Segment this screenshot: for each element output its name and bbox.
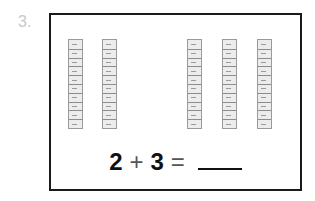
rod-tick xyxy=(261,53,266,54)
rod-tick xyxy=(72,71,77,72)
rod-tick xyxy=(191,88,196,89)
rod-tick xyxy=(72,97,77,98)
problem-box: 2+3= xyxy=(49,13,302,191)
ten-rod xyxy=(102,39,117,129)
rod-segment-line xyxy=(223,58,236,59)
rod-segment-line xyxy=(69,93,82,94)
rod-segment-line xyxy=(258,66,271,67)
rod-tick xyxy=(226,106,231,107)
rod-segment-line xyxy=(258,58,271,59)
rod-segment-line xyxy=(69,102,82,103)
rod-segment-line xyxy=(103,119,116,120)
rod-segment-line xyxy=(223,49,236,50)
rod-tick xyxy=(72,106,77,107)
rod-tick xyxy=(72,44,77,45)
rod-segment-line xyxy=(188,58,201,59)
rod-segment-line xyxy=(188,93,201,94)
rod-segment-line xyxy=(258,102,271,103)
rod-segment-line xyxy=(258,110,271,111)
rod-tick xyxy=(191,62,196,63)
rod-tick xyxy=(226,97,231,98)
rod-tick xyxy=(261,115,266,116)
rod-tick xyxy=(106,44,111,45)
rod-segment-line xyxy=(223,110,236,111)
addend-b: 3 xyxy=(151,148,165,175)
rod-tick xyxy=(191,80,196,81)
rod-tick xyxy=(72,80,77,81)
rod-tick xyxy=(261,71,266,72)
rod-segment-line xyxy=(188,102,201,103)
rod-segment-line xyxy=(223,66,236,67)
rod-tick xyxy=(261,80,266,81)
rod-segment-line xyxy=(69,84,82,85)
rod-tick xyxy=(72,115,77,116)
rod-tick xyxy=(261,97,266,98)
rod-tick xyxy=(226,62,231,63)
rod-segment-line xyxy=(188,110,201,111)
rod-tick xyxy=(226,53,231,54)
ten-rod xyxy=(257,39,272,129)
rod-segment-line xyxy=(258,93,271,94)
rod-tick xyxy=(106,88,111,89)
rod-segment-line xyxy=(223,75,236,76)
answer-blank[interactable] xyxy=(198,150,242,170)
rod-segment-line xyxy=(69,119,82,120)
rod-tick xyxy=(261,62,266,63)
rod-segment-line xyxy=(103,93,116,94)
rod-tick xyxy=(191,124,196,125)
rod-tick xyxy=(191,44,196,45)
rod-segment-line xyxy=(223,119,236,120)
rod-tick xyxy=(226,44,231,45)
rod-tick xyxy=(261,106,266,107)
addend-a: 2 xyxy=(109,148,123,175)
equation: 2+3= xyxy=(51,148,300,176)
rod-tick xyxy=(72,53,77,54)
rod-segment-line xyxy=(188,75,201,76)
rod-segment-line xyxy=(258,75,271,76)
rod-tick xyxy=(106,124,111,125)
rod-segment-line xyxy=(69,58,82,59)
rod-segment-line xyxy=(103,84,116,85)
rod-segment-line xyxy=(223,93,236,94)
rod-segment-line xyxy=(103,58,116,59)
rod-segment-line xyxy=(69,66,82,67)
rod-segment-line xyxy=(69,75,82,76)
ten-rod xyxy=(68,39,83,129)
rod-segment-line xyxy=(188,84,201,85)
rod-tick xyxy=(261,44,266,45)
rod-segment-line xyxy=(103,110,116,111)
ten-rod xyxy=(187,39,202,129)
rod-segment-line xyxy=(103,49,116,50)
rod-tick xyxy=(106,62,111,63)
rod-segment-line xyxy=(188,66,201,67)
rod-tick xyxy=(106,53,111,54)
rod-segment-line xyxy=(223,84,236,85)
rod-segment-line xyxy=(103,66,116,67)
rod-tick xyxy=(226,80,231,81)
rod-tick xyxy=(191,106,196,107)
rod-tick xyxy=(72,124,77,125)
rod-tick xyxy=(226,88,231,89)
question-number: 3. xyxy=(18,13,31,31)
rod-tick xyxy=(106,97,111,98)
rod-segment-line xyxy=(258,119,271,120)
ten-rod xyxy=(222,39,237,129)
rod-tick xyxy=(72,62,77,63)
rod-tick xyxy=(261,124,266,125)
rod-tick xyxy=(226,124,231,125)
rod-segment-line xyxy=(188,49,201,50)
rod-segment-line xyxy=(258,49,271,50)
rod-tick xyxy=(191,97,196,98)
rod-segment-line xyxy=(103,102,116,103)
rod-segment-line xyxy=(69,49,82,50)
rod-tick xyxy=(72,88,77,89)
rod-segment-line xyxy=(188,119,201,120)
rod-tick xyxy=(226,115,231,116)
rod-segment-line xyxy=(223,102,236,103)
rod-tick xyxy=(261,88,266,89)
rod-tick xyxy=(191,115,196,116)
plus-sign: + xyxy=(129,148,144,175)
rod-tick xyxy=(191,71,196,72)
rod-segment-line xyxy=(103,75,116,76)
rod-tick xyxy=(191,53,196,54)
